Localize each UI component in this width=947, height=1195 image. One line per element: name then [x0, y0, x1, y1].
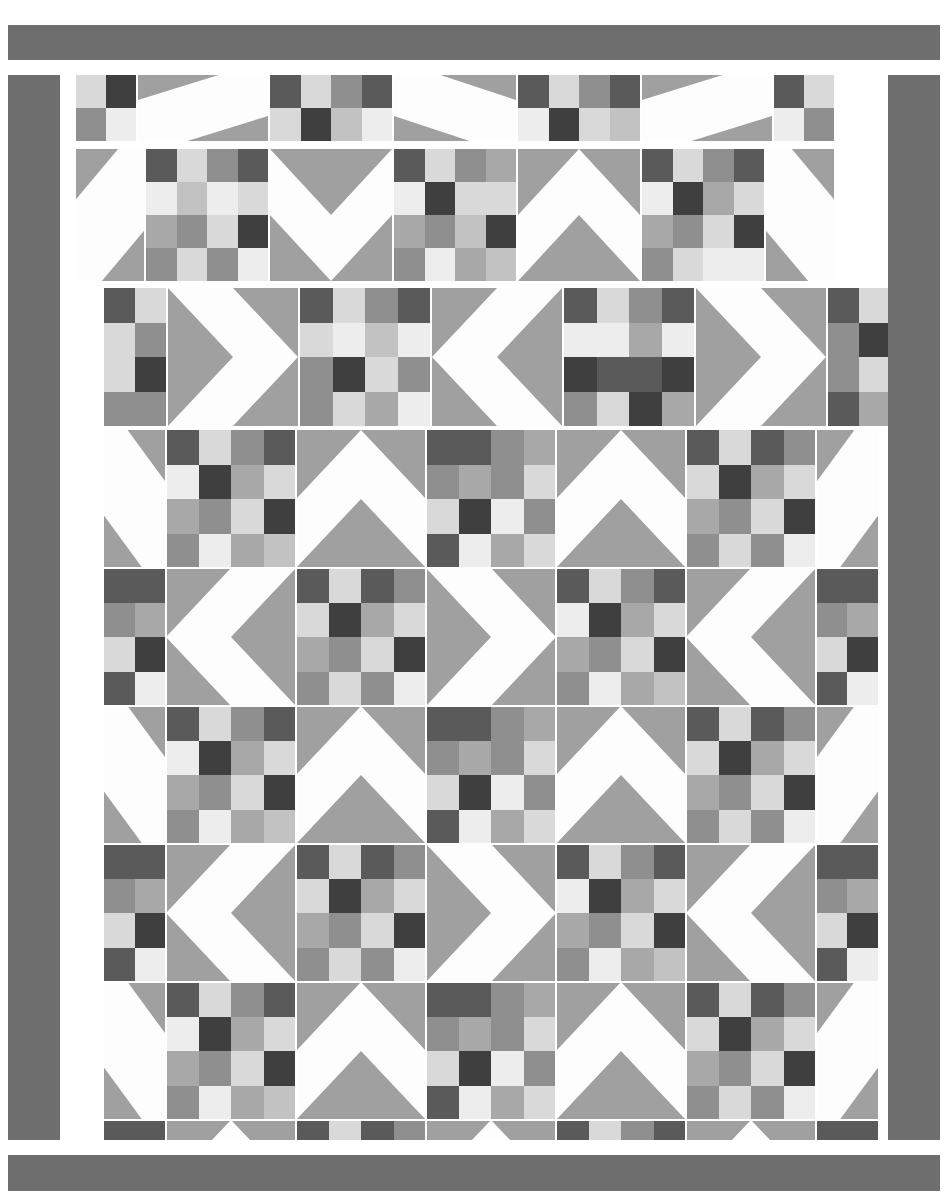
- quilt-patch: [394, 182, 425, 215]
- quilt-patch: [199, 1051, 232, 1086]
- quilt-patch: [686, 810, 719, 845]
- quilt-block-half-square-triangle-r2c0: [104, 706, 166, 844]
- quilt-block-half-square-triangle-strip1-5: [642, 75, 772, 141]
- quilt-patch: [734, 248, 765, 281]
- quilt-patch: [231, 1086, 264, 1121]
- white-chevron-shape: [166, 844, 296, 982]
- quilt-patch: [597, 357, 630, 392]
- quilt-patch: [104, 672, 135, 707]
- white-chevron-shape: [556, 706, 686, 844]
- white-chevron-shape: [426, 1120, 556, 1140]
- quilt-patch: [199, 465, 232, 500]
- quilt-patch: [719, 465, 752, 500]
- block-seam-vertical: [815, 430, 817, 1140]
- quilt-patch: [589, 568, 622, 603]
- quilt-patch: [673, 248, 704, 281]
- quilt-patch: [394, 948, 427, 983]
- quilt-patch: [719, 810, 752, 845]
- quilt-patch: [719, 706, 752, 741]
- quilt-patch: [654, 672, 687, 707]
- quilt-patch: [804, 75, 834, 108]
- border-bar-left: [8, 75, 60, 1140]
- quilt-patch: [751, 982, 784, 1017]
- quilt-patch: [719, 741, 752, 776]
- quilt-patch: [166, 706, 199, 741]
- quilt-block-chevron-strip2-4: [518, 149, 640, 281]
- quilt-patch: [301, 75, 332, 108]
- white-chevron-shape: [556, 982, 686, 1120]
- quilt-patch: [238, 149, 269, 182]
- quilt-patch: [238, 248, 269, 281]
- quilt-patch: [104, 392, 135, 427]
- quilt-patch: [361, 844, 394, 879]
- quilt-patch: [459, 775, 492, 810]
- quilt-patch: [847, 844, 878, 879]
- quilt-block-sixteen-patch-r1c6: [816, 568, 878, 706]
- quilt-patch: [719, 499, 752, 534]
- quilt-patch: [816, 637, 847, 672]
- quilt-patch: [426, 465, 459, 500]
- white-triangle-shape: [816, 430, 878, 568]
- quilt-patch: [329, 913, 362, 948]
- quilt-patch: [751, 534, 784, 569]
- quilt-block-sixteen-patch-strip1-4: [518, 75, 640, 141]
- quilt-patch: [455, 215, 486, 248]
- quilt-patch: [135, 672, 166, 707]
- quilt-patch: [264, 1017, 297, 1052]
- quilt-patch: [654, 1120, 687, 1140]
- quilt-strip-row-2: [76, 149, 888, 281]
- quilt-patch: [264, 741, 297, 776]
- quilt-block-chevron-r2c2: [296, 706, 426, 844]
- quilt-patch: [365, 357, 398, 392]
- quilt-patch: [459, 1017, 492, 1052]
- quilt-patch: [621, 948, 654, 983]
- quilt-patch: [751, 706, 784, 741]
- quilt-patch: [231, 810, 264, 845]
- quilt-patch: [784, 775, 817, 810]
- quilt-patch: [231, 706, 264, 741]
- quilt-patch: [686, 1017, 719, 1052]
- quilt-block-half-square-triangle-r4c6: [816, 982, 878, 1120]
- quilt-block-chevron-r2c4: [556, 706, 686, 844]
- quilt-patch: [784, 430, 817, 465]
- quilt-patch: [751, 1051, 784, 1086]
- quilt-patch: [556, 879, 589, 914]
- quilt-patch: [394, 215, 425, 248]
- quilt-patch: [847, 1120, 878, 1140]
- quilt-patch: [199, 1017, 232, 1052]
- quilt-patch: [524, 1086, 557, 1121]
- white-chevron-shape: [686, 1120, 816, 1140]
- quilt-patch: [556, 1120, 589, 1140]
- quilt-patch: [104, 913, 135, 948]
- quilt-patch: [394, 637, 427, 672]
- white-chevron-shape: [696, 288, 826, 426]
- quilt-block-sixteen-patch-r3c0: [104, 844, 166, 982]
- quilt-patch: [621, 879, 654, 914]
- quilt-block-sixteen-patch-r5c0: [104, 1120, 166, 1140]
- quilt-patch: [524, 1017, 557, 1052]
- quilt-block-sixteen-patch-strip2-1: [146, 149, 268, 281]
- quilt-patch: [104, 844, 135, 879]
- quilt-block-sixteen-patch-r3c2: [296, 844, 426, 982]
- block-seam-horizontal: [104, 981, 888, 983]
- quilt-patch: [270, 108, 301, 141]
- quilt-patch: [231, 982, 264, 1017]
- quilt-patch: [300, 323, 333, 358]
- quilt-patch: [301, 108, 332, 141]
- quilt-block-sixteen-patch-r3c6: [816, 844, 878, 982]
- quilt-patch: [621, 672, 654, 707]
- quilt-patch: [394, 672, 427, 707]
- quilt-patch: [264, 1086, 297, 1121]
- quilt-patch: [329, 844, 362, 879]
- quilt-patch: [361, 637, 394, 672]
- quilt-patch: [719, 1017, 752, 1052]
- quilt-patch: [491, 741, 524, 776]
- quilt-block-chevron-strip2-2: [270, 149, 392, 281]
- quilt-patch: [146, 182, 177, 215]
- quilt-block-half-square-triangle-r4c0: [104, 982, 166, 1120]
- quilt-patch: [394, 149, 425, 182]
- quilt-patch: [135, 357, 166, 392]
- quilt-patch: [703, 149, 734, 182]
- quilt-patch: [524, 465, 557, 500]
- quilt-strip-row-1: [76, 75, 888, 141]
